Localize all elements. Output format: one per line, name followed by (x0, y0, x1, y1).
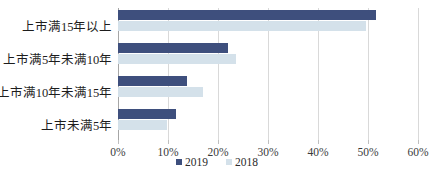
bar-2018[interactable] (118, 21, 366, 31)
bar-2018[interactable] (118, 54, 236, 64)
legend-item-2018[interactable]: 2018 (226, 156, 258, 168)
bar-2019[interactable] (118, 10, 376, 20)
bar-group: 上市未满5年 (118, 107, 418, 140)
tick-mark (268, 140, 269, 144)
bar-group: 上市满10年未满15年 (118, 74, 418, 107)
tick-mark (418, 140, 419, 144)
bar-2018[interactable] (118, 87, 203, 97)
bar-2019[interactable] (118, 109, 176, 119)
category-label: 上市满10年未满15年 (0, 81, 112, 100)
legend-item-2019[interactable]: 2019 (176, 156, 208, 168)
bar-group: 上市满5年未满10年 (118, 41, 418, 74)
square-marker-icon (176, 159, 182, 165)
category-label: 上市未满5年 (41, 114, 112, 133)
category-label: 上市满5年未满10年 (3, 48, 112, 67)
square-marker-icon (226, 159, 232, 165)
legend-label: 2018 (235, 156, 258, 168)
bar-chart: 0%10%20%30%40%50%60% 上市满15年以上上市满5年未满10年上… (0, 0, 434, 182)
tick-mark (318, 140, 319, 144)
tick-mark (368, 140, 369, 144)
bar-2018[interactable] (118, 120, 167, 130)
category-label: 上市满15年以上 (22, 15, 112, 34)
legend-label: 2019 (185, 156, 208, 168)
bar-2019[interactable] (118, 43, 228, 53)
chart-legend: 2019 2018 (0, 156, 434, 168)
tick-mark (218, 140, 219, 144)
tick-mark (118, 140, 119, 144)
bar-group: 上市满15年以上 (118, 8, 418, 41)
bar-2019[interactable] (118, 76, 187, 86)
plot-area: 0%10%20%30%40%50%60% 上市满15年以上上市满5年未满10年上… (118, 8, 418, 140)
tick-mark (168, 140, 169, 144)
gridline (418, 8, 419, 140)
